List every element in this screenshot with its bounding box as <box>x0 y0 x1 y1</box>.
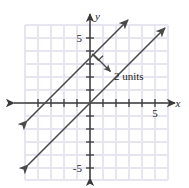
coordinate-plane-figure: y x 5 -5 5 2 units <box>0 0 189 188</box>
x-axis-label: x <box>175 97 181 109</box>
plot-lines <box>27 20 165 165</box>
y-axis-label: y <box>94 10 100 22</box>
distance-label: 2 units <box>114 70 144 82</box>
graph-svg: y x 5 -5 5 2 units <box>0 0 189 188</box>
distance-annotation <box>92 54 111 72</box>
y-tick-label-neg5: -5 <box>73 162 83 174</box>
y-tick-label-5: 5 <box>77 32 83 44</box>
lower-line <box>28 28 165 165</box>
x-tick-label-5: 5 <box>152 107 158 119</box>
